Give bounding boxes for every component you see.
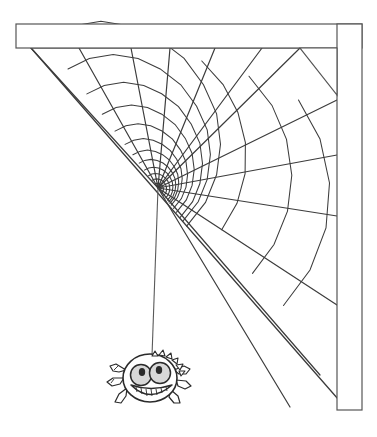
spider-pupil-left (139, 368, 145, 376)
spider-pupil-right (156, 366, 162, 374)
vertical-wall-beam (337, 24, 362, 410)
illustration-canvas (0, 0, 377, 437)
horizontal-ceiling-beam (16, 24, 362, 48)
spider-web-scene (0, 0, 377, 437)
